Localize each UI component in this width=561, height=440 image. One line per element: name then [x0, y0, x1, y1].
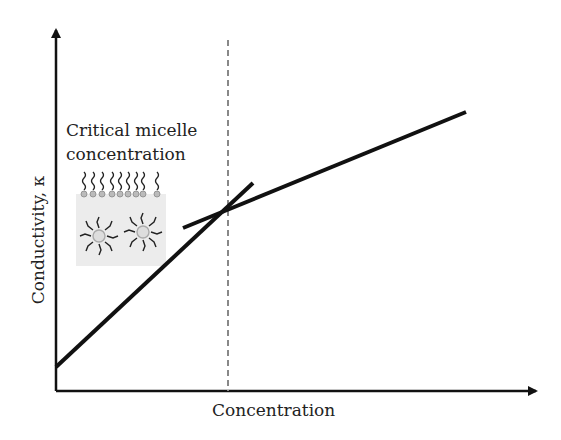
- plot-area: [0, 0, 561, 440]
- x-axis-label: Concentration: [212, 400, 335, 420]
- cmc-conductivity-diagram: Conductivity, κ Concentration Critical m…: [0, 0, 561, 440]
- cmc-annotation-line2: concentration: [66, 144, 186, 164]
- shallow-line-above-cmc: [183, 112, 466, 228]
- micelle-illustration: [76, 172, 166, 266]
- y-axis-label: Conductivity, κ: [28, 170, 48, 310]
- cmc-annotation-line1: Critical micelle: [66, 120, 197, 140]
